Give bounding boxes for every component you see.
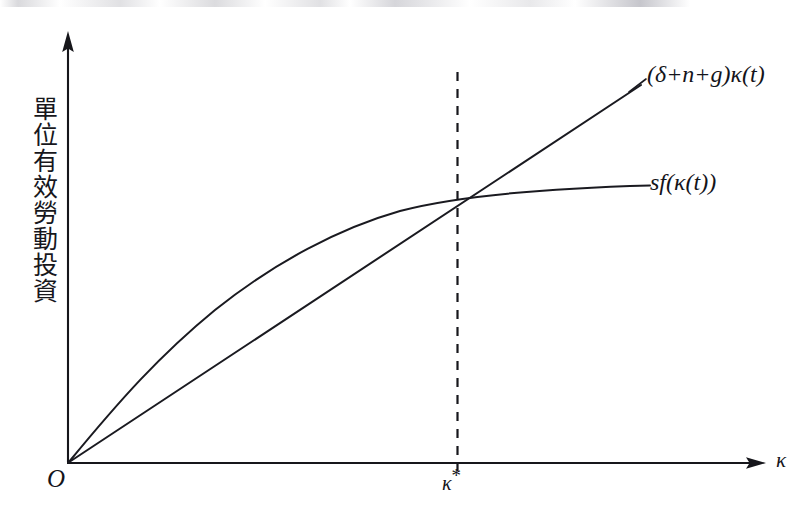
savings-curve-label: sf(κ(t)) [650,170,716,194]
savings-curve [69,186,651,463]
y-axis [62,31,74,463]
x-axis-label: κ [776,450,786,471]
y-axis-caption: 單位有效勞動投資 [22,96,56,304]
steady-state-tick-label: κ* [442,466,461,493]
depreciation-line [69,85,642,463]
upper-label-leader [629,79,646,92]
kappa-star-base: κ [442,472,452,494]
solow-model-figure: 單位有效勞動投資 (δ+n+g)κ(t) sf(κ(t)) O κ* κ [0,0,805,519]
depreciation-line-label: (δ+n+g)κ(t) [647,62,765,86]
origin-label: O [47,466,65,491]
x-axis [67,457,766,469]
kappa-star-superscript: * [452,465,462,486]
